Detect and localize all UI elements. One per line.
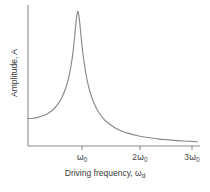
x-axis-title: Driving frequency, ωd — [0, 168, 210, 178]
x-tick-marks — [82, 146, 192, 150]
x-tick-label: 3ω0 — [172, 152, 210, 162]
axes-group — [28, 5, 200, 146]
x-axis-title-subscript: d — [142, 172, 146, 179]
plot-canvas — [0, 0, 210, 192]
x-tick-label-symbol: ω — [77, 152, 84, 162]
x-tick-label: 2ω0 — [120, 152, 160, 162]
resonance-curve — [28, 11, 198, 141]
x-tick-label-subscript: 0 — [84, 156, 88, 163]
x-tick-label-subscript: 0 — [196, 156, 200, 163]
x-tick-label: ω0 — [62, 152, 102, 162]
x-axis-title-text: Driving frequency, ω — [65, 168, 142, 178]
resonance-curve-figure: ω02ω03ω0 Driving frequency, ωd Amplitude… — [0, 0, 210, 192]
y-axis-title: Amplitude, A — [9, 23, 19, 123]
x-tick-label-subscript: 0 — [144, 156, 148, 163]
